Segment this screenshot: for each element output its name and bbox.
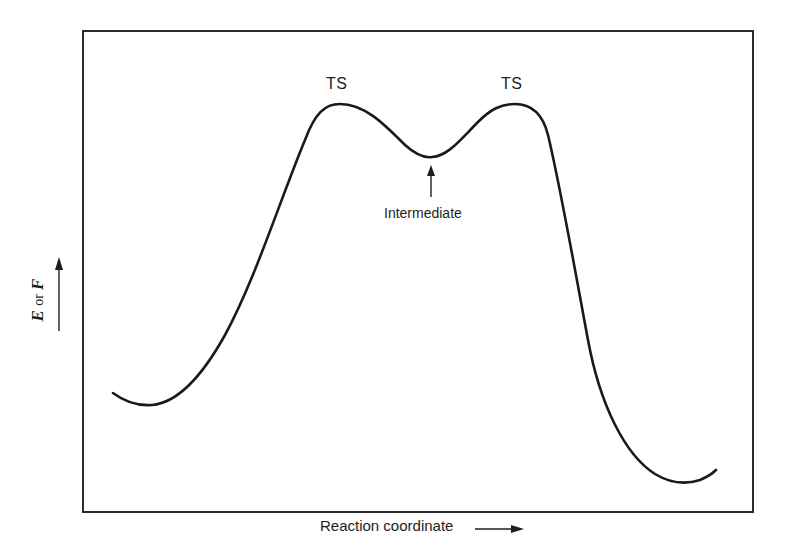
energy-curve-plot bbox=[0, 0, 789, 548]
y-axis-var-f: F bbox=[28, 279, 47, 290]
intermediate-arrow-icon bbox=[427, 165, 435, 197]
ts-left-label: TS bbox=[326, 75, 347, 93]
intermediate-label: Intermediate bbox=[384, 205, 462, 221]
y-axis-arrow-icon bbox=[55, 257, 63, 331]
energy-profile-curve bbox=[113, 104, 716, 483]
y-axis-var-e: E bbox=[28, 310, 47, 321]
x-axis-label: Reaction coordinate bbox=[320, 517, 453, 534]
x-axis-arrow-icon bbox=[475, 525, 524, 533]
energy-diagram-figure: TS TS Intermediate Reaction coordinate E… bbox=[0, 0, 789, 548]
ts-right-label: TS bbox=[501, 75, 522, 93]
y-axis-conjunction: or bbox=[31, 294, 46, 306]
y-axis-label: E or F bbox=[28, 268, 48, 332]
